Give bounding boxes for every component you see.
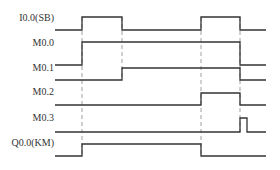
signal-waveform [55,68,266,80]
signal-waveform [55,93,266,105]
signal-waveform [55,144,266,156]
signal-waveform [55,42,266,65]
signal-waveform [55,118,266,132]
timing-diagram: I0.0(SB) M0.0 M0.1 M0.2 M0.3 Q0.0(KM) [0,0,280,170]
waveform-canvas [0,0,280,170]
signal-waveform [55,17,266,30]
